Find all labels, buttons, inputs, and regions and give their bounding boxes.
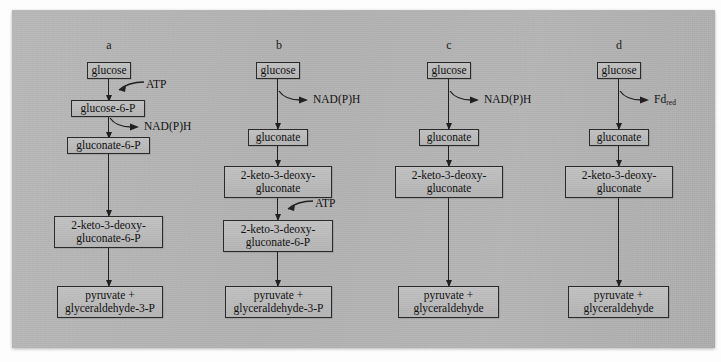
hook-b-atp <box>277 197 319 215</box>
node-a-products: pyruvate + glyceraldehyde-3-P <box>57 286 163 318</box>
node-a-kdpg: 2-keto-3-deoxy- gluconate-6-P <box>54 216 163 248</box>
cofactor-c-nadph: NAD(P)H <box>484 93 531 105</box>
hook-a-atp <box>108 78 150 96</box>
node-c-gluconate: gluconate <box>419 129 479 146</box>
pathway-column-c: c glucose NAD(P)H gluconate 2-keto-3-deo… <box>364 0 534 362</box>
node-a-glucose-6-p: glucose-6-P <box>71 100 145 117</box>
figure-root: a glucose ATP glucose-6-P NAD(P)H glucon… <box>0 0 721 362</box>
node-b-products: pyruvate + glyceraldehyde-3-P <box>225 286 332 318</box>
node-b-glucose: glucose <box>256 62 300 79</box>
node-d-gluconate: gluconate <box>589 129 649 146</box>
cofactor-a-atp: ATP <box>146 78 166 90</box>
arrow-c-3 <box>448 198 449 286</box>
cofactor-d-fd-subscript: red <box>666 98 676 107</box>
cofactor-b-nadph-label: NAD(P)H <box>313 93 360 105</box>
node-a-glucose: glucose <box>87 62 131 79</box>
arrow-b-2 <box>277 146 278 166</box>
node-b-gluconate: gluconate <box>248 129 308 146</box>
node-d-glucose: glucose <box>597 62 641 79</box>
arrow-d-3 <box>618 198 619 286</box>
arrow-a-3 <box>108 154 109 216</box>
column-label-c: c <box>364 38 534 53</box>
node-c-products: pyruvate + glyceraldehyde <box>398 286 499 318</box>
column-label-d: d <box>534 38 704 53</box>
node-a-gluconate-6-p: gluconate-6-P <box>67 137 150 154</box>
column-label-b: b <box>194 38 364 53</box>
node-c-kdg: 2-keto-3-deoxy- gluconate <box>395 166 503 198</box>
arrow-b-4 <box>277 252 278 286</box>
cofactor-a-nadph-label: NAD(P)H <box>144 120 191 132</box>
cofactor-b-atp: ATP <box>315 197 335 209</box>
cofactor-d-fd-label: Fd <box>654 93 666 105</box>
cofactor-b-atp-label: ATP <box>315 197 335 209</box>
node-b-kdpg: 2-keto-3-deoxy- gluconate-6-P <box>223 220 333 252</box>
cofactor-a-nadph: NAD(P)H <box>144 120 191 132</box>
pathway-column-a: a glucose ATP glucose-6-P NAD(P)H glucon… <box>24 0 194 362</box>
cofactor-c-nadph-label: NAD(P)H <box>484 93 531 105</box>
pathway-column-d: d glucose Fdred gluconate 2-keto-3-deoxy… <box>534 0 704 362</box>
node-b-kdg: 2-keto-3-deoxy- gluconate <box>224 166 332 198</box>
arrow-d-2 <box>618 146 619 166</box>
cofactor-a-atp-label: ATP <box>146 78 166 90</box>
column-label-a: a <box>24 38 194 53</box>
pathway-column-b: b glucose NAD(P)H gluconate 2-keto-3-deo… <box>194 0 364 362</box>
arrow-a-4 <box>108 248 109 286</box>
arrow-c-2 <box>448 146 449 166</box>
cofactor-b-nadph: NAD(P)H <box>313 93 360 105</box>
node-d-kdg: 2-keto-3-deoxy- gluconate <box>565 166 673 198</box>
cofactor-d-fd-red: Fdred <box>654 93 676 109</box>
node-d-products: pyruvate + glyceraldehyde <box>568 286 669 318</box>
node-c-glucose: glucose <box>427 62 471 79</box>
